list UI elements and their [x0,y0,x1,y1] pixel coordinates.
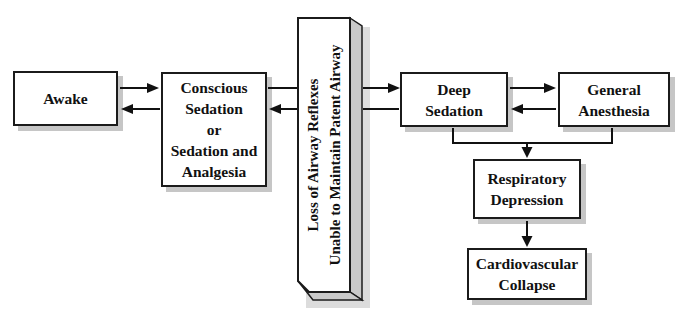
arrowhead-right-icon [544,83,556,93]
diagram-canvas: Awake Conscious Sedation or Sedation and… [0,0,682,326]
arrowhead-right-icon [388,83,400,93]
arrowhead-down-icon [522,236,533,247]
arrow-conscious-to-awake [121,104,160,114]
arrow-bar-to-conscious [269,104,297,114]
arrow-general-to-deep [511,104,556,114]
arrowhead-right-icon [147,83,159,93]
arrow-respiratory-to-cardio [522,221,533,247]
arrow-deep-to-general [510,83,556,93]
airway-bar-line-2: Unable to Maintain Patent Airway [324,17,346,293]
arrowhead-left-icon [121,104,133,114]
airway-bar-side-face [350,18,362,300]
airway-bar-line-1: Loss of Airway Reflexes [302,17,324,293]
arrowhead-down-icon [522,147,533,158]
arrow-bracket-to-respiratory [453,128,612,158]
arrow-awake-to-conscious [120,83,159,93]
arrowhead-left-icon [511,104,523,114]
arrowhead-left-icon [269,104,281,114]
node-airway-bar: Loss of Airway Reflexes Unable to Mainta… [302,17,346,293]
